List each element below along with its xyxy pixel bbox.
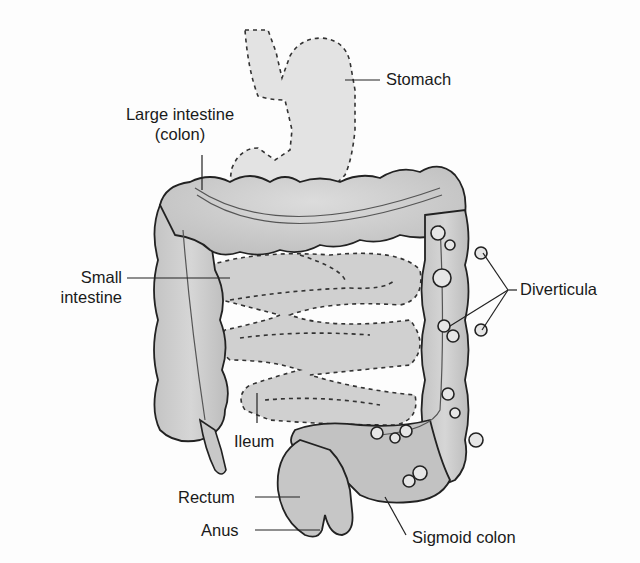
label-large-intestine-line2: (colon): [105, 124, 255, 144]
label-ileum: Ileum: [234, 431, 274, 451]
label-large-intestine: Large intestine (colon): [105, 104, 255, 144]
label-stomach: Stomach: [386, 69, 451, 89]
label-large-intestine-line1: Large intestine: [105, 104, 255, 124]
label-small-intestine-line1: Small: [20, 267, 122, 287]
label-small-intestine-line2: intestine: [20, 287, 122, 307]
label-rectum: Rectum: [178, 487, 235, 507]
label-sigmoid-colon: Sigmoid colon: [412, 527, 516, 547]
label-small-intestine: Small intestine: [20, 267, 122, 307]
label-anus: Anus: [201, 520, 239, 540]
digestive-tract-diagram: Stomach Large intestine (colon) Small in…: [0, 0, 640, 563]
label-diverticula: Diverticula: [520, 279, 597, 299]
